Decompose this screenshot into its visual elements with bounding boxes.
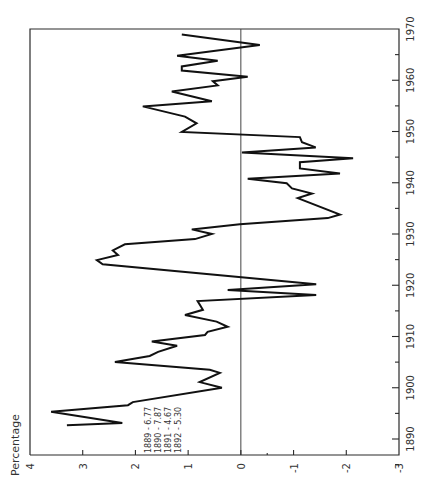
percentage-series-line: [51, 35, 353, 426]
annotation-note: 1891 - 4.67: [164, 407, 173, 453]
annotation-notes: 1889 - 6.771890 - 7.871891 - 4.671892 - …: [144, 407, 183, 453]
annotation-note: 1889 - 6.77: [144, 407, 153, 453]
value-tick-label: 0: [236, 463, 247, 469]
value-tick-label: 4: [25, 463, 36, 469]
value-tick-label: -1: [289, 463, 300, 473]
year-tick-label: 1930: [405, 221, 416, 246]
year-tick-label: 1970: [405, 16, 416, 41]
annotation-note: 1890 - 7.87: [154, 407, 163, 453]
year-tick-label: 1910: [405, 324, 416, 349]
year-tick-label: 1960: [405, 68, 416, 93]
value-tick-label: 1: [183, 463, 194, 469]
year-tick-label: 1900: [405, 375, 416, 400]
line-chart: 43210-1-2-3 1890190019101920193019401950…: [0, 0, 439, 504]
year-tick-label: 1950: [405, 119, 416, 144]
year-tick-label: 1920: [405, 273, 416, 298]
value-axis-ticks: 43210-1-2-3: [25, 450, 405, 473]
year-tick-label: 1940: [405, 170, 416, 195]
year-tick-label: 1890: [405, 426, 416, 451]
value-tick-label: 2: [130, 463, 141, 469]
year-axis-ticks: 189019001910192019301940195019601970: [392, 16, 416, 464]
value-axis-title: Percentage: [9, 414, 22, 476]
value-tick-label: 3: [78, 463, 89, 469]
value-tick-label: -2: [341, 463, 352, 473]
annotation-note: 1892 - 5.30: [174, 407, 183, 453]
plot-frame: [30, 29, 399, 455]
